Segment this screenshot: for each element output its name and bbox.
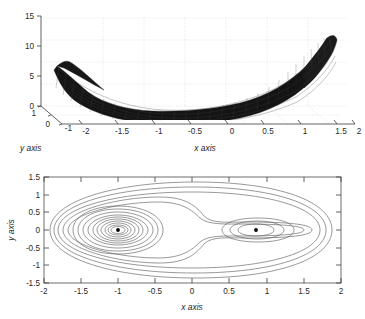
surface-xtick-neg1p5: -1.5 — [115, 127, 130, 136]
contour-xtick-2: 2 — [339, 287, 344, 296]
surface-mesh — [54, 36, 337, 124]
contour-ytick-0p5: 0.5 — [29, 208, 41, 217]
surface-ytick-neg1: -1 — [65, 124, 73, 133]
contour-xtick-neg1: -1 — [114, 287, 122, 296]
surface-xlabel-text: x axis — [193, 143, 216, 153]
contour-ytick-neg0p5: -0.5 — [26, 244, 41, 253]
contour-xtick-neg0p5: -0.5 — [148, 287, 163, 296]
surface-xtick-neg0p5: -0.5 — [188, 127, 203, 136]
contour-frame — [44, 177, 341, 283]
contour-xtick-0: 0 — [190, 287, 195, 296]
surface-ztick-10: 10 — [25, 42, 35, 51]
contour-xtick-neg2: -2 — [40, 287, 48, 296]
contour-ylabel-text: y axis — [6, 218, 16, 241]
contour-xlabel: x axis — [180, 302, 203, 312]
surface-x-axis: -2 -1.5 -1 -0.5 0 0.5 1 1.5 2 — [62, 120, 362, 136]
surface-ztick-5: 5 — [29, 72, 34, 81]
surface-ztick-15: 15 — [25, 12, 35, 21]
surface-xtick-neg2: -2 — [82, 127, 90, 136]
contour-ytick-1p5: 1.5 — [29, 173, 41, 182]
contour-ytick-0: 0 — [35, 226, 40, 235]
contour-xlabel-text: x axis — [180, 302, 203, 312]
surface-ytick-1: 1 — [31, 109, 36, 118]
surface-xtick-1p5: 1.5 — [335, 127, 347, 136]
contour-y-ticks — [44, 177, 341, 283]
surface-panel: 15 10 5 0 1 0 -1 — [0, 0, 365, 160]
surface-xtick-neg1: -1 — [155, 127, 163, 136]
contour-x-ticklabels: -2 -1.5 -1 -0.5 0 0.5 1 1.5 2 — [40, 287, 343, 296]
contour-ytick-neg1p5: -1.5 — [26, 279, 41, 288]
local-minimum-marker — [254, 228, 258, 232]
contour-y-ticklabels: 1.5 1 0.5 0 -0.5 -1 -1.5 — [26, 173, 41, 288]
surface-xtick-2: 2 — [357, 127, 362, 136]
surface-xtick-0: 0 — [230, 127, 235, 136]
figure-root: 15 10 5 0 1 0 -1 — [0, 0, 365, 319]
surface-z-axis: 15 10 5 0 — [25, 12, 41, 111]
contour-ytick-1: 1 — [35, 191, 40, 200]
contour-xtick-0p5: 0.5 — [223, 287, 235, 296]
surface-ylabel-text: y axis — [19, 143, 42, 153]
contour-ytick-neg1: -1 — [33, 261, 41, 270]
contour-xtick-1p5: 1.5 — [298, 287, 310, 296]
global-minimum-marker — [116, 228, 120, 232]
contour-panel: -2 -1.5 -1 -0.5 0 0.5 1 1.5 2 1.5 1 0.5 … — [0, 160, 365, 319]
surface-ylabel: y axis — [19, 143, 42, 153]
surface-xtick-0p5: 0.5 — [262, 127, 274, 136]
contour-svg: -2 -1.5 -1 -0.5 0 0.5 1 1.5 2 1.5 1 0.5 … — [0, 160, 365, 319]
surface-xtick-1: 1 — [303, 127, 308, 136]
minima-markers — [116, 228, 258, 232]
surface-ytick-0: 0 — [45, 120, 50, 129]
contour-lines — [50, 182, 332, 278]
contour-xtick-neg1p5: -1.5 — [74, 287, 89, 296]
surface-xlabel: x axis — [193, 143, 216, 153]
contour-ylabel: y axis — [6, 218, 16, 241]
contour-xtick-1: 1 — [265, 287, 270, 296]
surface-y-axis: 1 0 -1 — [31, 106, 72, 133]
contour-x-ticks — [44, 177, 341, 283]
surface-svg: 15 10 5 0 1 0 -1 — [0, 0, 365, 160]
